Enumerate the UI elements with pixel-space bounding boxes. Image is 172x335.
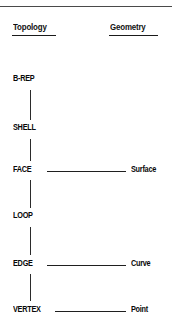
vertical-link-shell-face <box>30 139 31 161</box>
node-loop: LOOP <box>13 210 33 220</box>
node-face: FACE <box>13 164 31 174</box>
column-header-geometry-underline <box>109 35 158 36</box>
top-divider-rule <box>0 6 172 7</box>
horizontal-link-vertex-point <box>55 311 126 312</box>
vertical-link-edge-vertex <box>30 274 31 301</box>
column-header-topology-underline <box>12 35 56 36</box>
horizontal-link-face-surface <box>47 171 126 172</box>
node-brep: B-REP <box>13 73 34 83</box>
node-shell: SHELL <box>13 122 36 132</box>
node-edge: EDGE <box>13 258 33 268</box>
topology-geometry-diagram: Topology Geometry B-REP SHELL FACE LOOP … <box>0 0 172 335</box>
node-curve: Curve <box>131 258 150 268</box>
vertical-link-loop-edge <box>30 227 31 255</box>
horizontal-link-edge-curve <box>47 265 126 266</box>
node-point: Point <box>131 304 148 314</box>
node-vertex: VERTEX <box>13 304 41 314</box>
vertical-link-face-loop <box>30 180 31 208</box>
vertical-link-brep-shell <box>30 90 31 120</box>
node-surface: Surface <box>131 164 156 174</box>
column-header-geometry: Geometry <box>110 22 146 32</box>
column-header-topology: Topology <box>13 22 47 32</box>
